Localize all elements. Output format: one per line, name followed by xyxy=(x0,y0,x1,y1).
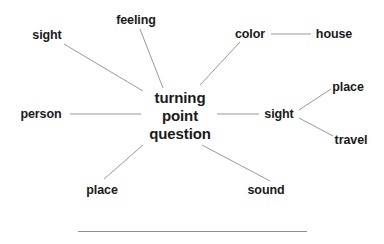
edge-feeling-center xyxy=(140,29,163,88)
edge-sight-right-travel xyxy=(299,118,333,136)
mindmap-canvas: turningpointquestionsightfeelingcolorhou… xyxy=(0,0,384,244)
node-house[interactable]: house xyxy=(316,27,352,41)
node-sight-topleft[interactable]: sight xyxy=(32,28,61,42)
node-place-right[interactable]: place xyxy=(332,80,363,94)
center-node-line-2: point xyxy=(149,107,211,125)
baseline-rule xyxy=(78,231,307,232)
node-travel[interactable]: travel xyxy=(335,133,368,147)
edge-sight-right-place xyxy=(299,89,331,110)
edge-color-center xyxy=(200,42,240,85)
edge-place-bottom-center xyxy=(104,145,143,179)
edge-sound-center xyxy=(202,145,270,181)
node-feeling[interactable]: feeling xyxy=(116,13,156,27)
node-color[interactable]: color xyxy=(235,27,265,41)
center-node[interactable]: turningpointquestion xyxy=(149,89,211,143)
node-sight-right[interactable]: sight xyxy=(264,107,293,121)
node-place-bottom[interactable]: place xyxy=(86,183,117,197)
node-sound[interactable]: sound xyxy=(248,183,285,197)
center-node-line-1: turning xyxy=(149,89,211,107)
edge-sight-topleft-center xyxy=(64,44,143,91)
center-node-line-3: question xyxy=(149,125,211,143)
node-person[interactable]: person xyxy=(20,107,61,121)
